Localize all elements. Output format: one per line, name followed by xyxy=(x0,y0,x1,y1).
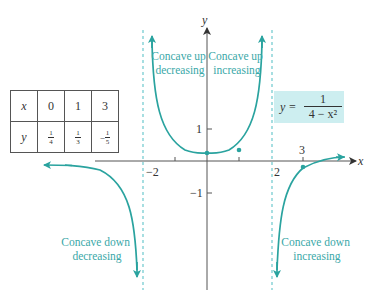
fraction: 13 xyxy=(75,129,81,146)
label-concave-up-decreasing: Concave up decreasing xyxy=(151,50,208,77)
tick-label-1: 1 xyxy=(196,122,202,136)
fraction: 15 xyxy=(105,129,111,146)
tick-label-2: 2 xyxy=(274,165,280,179)
equation-box: y = 1 4 − x² xyxy=(274,91,344,123)
fraction: 14 xyxy=(48,129,54,146)
x-axis-label: x xyxy=(357,154,364,168)
table-header-y: y xyxy=(11,122,38,153)
table-header-x: x xyxy=(11,91,38,122)
y-axis-label: y xyxy=(201,13,208,27)
label-concave-down-increasing: Concave down increasing xyxy=(281,236,353,263)
point-3-neg-fifth xyxy=(301,165,306,170)
table-cell: 3 xyxy=(92,91,119,122)
tick-label-3: 3 xyxy=(299,143,305,157)
point-1-third xyxy=(237,148,242,153)
tick-label-neg1: −1 xyxy=(190,186,203,200)
table-cell: 14 xyxy=(38,122,65,153)
label-concave-up-increasing: Concave up increasing xyxy=(208,50,265,77)
table-cell: 1 xyxy=(65,91,92,122)
tick-label-neg2: −2 xyxy=(146,165,159,179)
table-cell: 13 xyxy=(65,122,92,153)
table-cell: 0 xyxy=(38,91,65,122)
equation-fraction: 1 4 − x² xyxy=(304,92,342,122)
label-concave-down-decreasing: Concave down decreasing xyxy=(61,236,133,263)
table-row-y: y 14 13 −15 xyxy=(11,122,119,153)
table-cell: −15 xyxy=(92,122,119,153)
point-0-quarter xyxy=(205,151,210,156)
equation-lhs: y = xyxy=(280,100,296,115)
arrow-left xyxy=(44,165,72,166)
values-table: x 0 1 3 y 14 13 −15 xyxy=(10,90,119,153)
table-row-x: x 0 1 3 xyxy=(11,91,119,122)
